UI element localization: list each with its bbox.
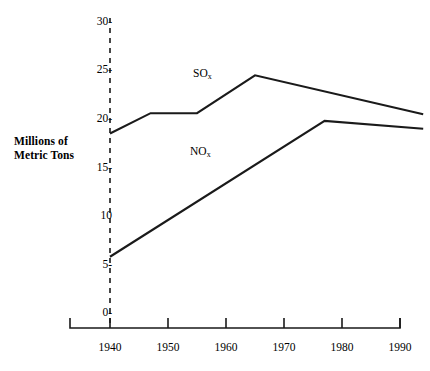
data-line-nox: [110, 121, 423, 257]
x-axis-line: [70, 318, 400, 328]
y-axis-ticks: [104, 22, 110, 313]
x-axis-ticks: [110, 318, 400, 328]
emissions-line-chart: Millions of Metric Tons 30- 25- 20- 15- …: [0, 0, 430, 371]
plot-area: [0, 0, 430, 371]
